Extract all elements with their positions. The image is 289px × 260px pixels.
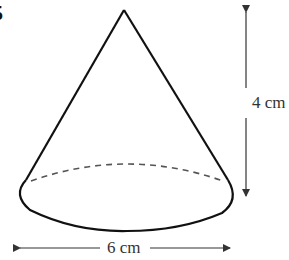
- cone-slant-right: [124, 10, 228, 180]
- cone-slant-left: [26, 10, 124, 180]
- question-number: 5: [0, 2, 3, 25]
- cone-diagram: 5 4 cm 6 cm: [0, 0, 289, 260]
- cone-drawing: [0, 0, 289, 260]
- width-label: 6 cm: [104, 239, 144, 256]
- base-hidden-edge: [31, 164, 223, 181]
- height-label: 4 cm: [252, 92, 286, 113]
- base-front-edge: [20, 180, 233, 231]
